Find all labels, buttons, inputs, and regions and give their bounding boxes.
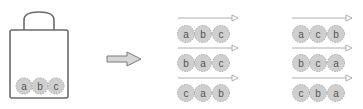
ball: c bbox=[213, 26, 230, 43]
ball-label: b bbox=[298, 58, 304, 69]
sequence-arrow-icon bbox=[178, 45, 238, 51]
ball-label: c bbox=[219, 58, 224, 69]
ball-label: b bbox=[218, 88, 224, 99]
ball: a bbox=[195, 55, 212, 72]
sequence-arrow-icon bbox=[292, 75, 352, 81]
ball-label: c bbox=[54, 81, 59, 92]
ball-label: a bbox=[200, 58, 206, 69]
ball: a bbox=[328, 55, 345, 72]
ball: c bbox=[213, 55, 230, 72]
ball-label: a bbox=[183, 29, 189, 40]
ball-label: c bbox=[184, 88, 189, 99]
ball: a bbox=[178, 26, 195, 43]
ball-label: a bbox=[333, 88, 339, 99]
ball: b bbox=[32, 78, 48, 94]
ball: b bbox=[293, 55, 310, 72]
sequence-arrow-icon bbox=[292, 45, 352, 51]
sequence-arrow-icon bbox=[178, 75, 238, 81]
ball: c bbox=[178, 85, 195, 102]
ball-label: a bbox=[200, 88, 206, 99]
ball: c bbox=[48, 78, 64, 94]
ball-label: a bbox=[298, 29, 304, 40]
ball: b bbox=[213, 85, 230, 102]
ball-label: b bbox=[37, 81, 43, 92]
sequence-arrow-icon bbox=[292, 15, 352, 21]
ball: c bbox=[310, 26, 327, 43]
ball: b bbox=[195, 26, 212, 43]
permutation-group-left: abcbaccab bbox=[178, 15, 239, 102]
ball-label: b bbox=[315, 88, 321, 99]
ball-label: c bbox=[316, 29, 321, 40]
ball: a bbox=[195, 85, 212, 102]
ball-label: c bbox=[299, 88, 304, 99]
right-arrow-icon bbox=[107, 52, 141, 66]
ball-label: b bbox=[200, 29, 206, 40]
ball-label: b bbox=[183, 58, 189, 69]
ball-label: b bbox=[333, 29, 339, 40]
bag-balls: abc bbox=[16, 78, 64, 94]
sequence-arrow-icon bbox=[178, 15, 238, 21]
ball-label: a bbox=[21, 81, 27, 92]
ball: a bbox=[293, 26, 310, 43]
ball: b bbox=[178, 55, 195, 72]
permutation-diagram: abc abcbaccab acbbcacba bbox=[0, 0, 363, 109]
ball: b bbox=[328, 26, 345, 43]
permutation-group-right: acbbcacba bbox=[292, 15, 352, 102]
ball-label: c bbox=[219, 29, 224, 40]
ball-label: c bbox=[316, 58, 321, 69]
ball-label: a bbox=[333, 58, 339, 69]
ball: c bbox=[310, 55, 327, 72]
ball: b bbox=[310, 85, 327, 102]
ball: a bbox=[328, 85, 345, 102]
ball: a bbox=[16, 78, 32, 94]
ball: c bbox=[293, 85, 310, 102]
